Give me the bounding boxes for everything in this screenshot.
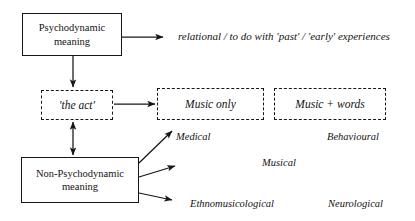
- label-medical: Medical: [176, 131, 210, 144]
- edge-nonpsychodynamic-to-ethnomusicological: [139, 193, 172, 200]
- node-music-only[interactable]: Music only: [157, 88, 264, 120]
- node-the-act-label: 'the act': [59, 98, 95, 112]
- edge-nonpsychodynamic-to-musical: [139, 166, 175, 177]
- label-ethnomusicological: Ethnomusicological: [190, 198, 274, 211]
- label-musical: Musical: [262, 157, 296, 170]
- node-the-act[interactable]: 'the act': [41, 90, 113, 120]
- node-non-psychodynamic-meaning-label: Non-Psychodynamic meaning: [36, 167, 124, 193]
- label-neurological: Neurological: [328, 198, 383, 211]
- label-relational-experiences: relational / to do with 'past' / 'early'…: [178, 30, 390, 43]
- node-psychodynamic-meaning[interactable]: Psychodynamic meaning: [22, 13, 122, 56]
- node-music-plus-words[interactable]: Music + words: [274, 88, 386, 120]
- node-non-psychodynamic-meaning[interactable]: Non-Psychodynamic meaning: [21, 157, 139, 203]
- node-music-plus-words-label: Music + words: [295, 97, 364, 111]
- diagram-canvas: Psychodynamic meaning 'the act' Music on…: [0, 0, 415, 221]
- label-behavioural: Behavioural: [327, 131, 379, 144]
- node-psychodynamic-meaning-label: Psychodynamic meaning: [39, 21, 106, 47]
- edge-nonpsychodynamic-to-medical: [139, 131, 172, 163]
- node-music-only-label: Music only: [185, 97, 236, 111]
